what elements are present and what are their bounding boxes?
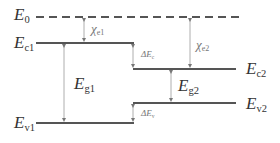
label-ev2: Ev2 xyxy=(246,95,267,115)
label-e0: E0 xyxy=(14,6,30,26)
label-eg2: Eg2 xyxy=(178,77,199,97)
label-ev1: Ev1 xyxy=(14,114,35,134)
label-ec2: Ec2 xyxy=(246,60,266,80)
label-delta-ec: ΔEc xyxy=(141,50,154,60)
band-diagram xyxy=(0,0,280,143)
label-chi-e2: χe2 xyxy=(196,38,209,53)
label-delta-ev: ΔEv xyxy=(141,109,155,119)
label-chi-e1: χe1 xyxy=(91,22,104,37)
label-eg1: Eg1 xyxy=(74,75,95,95)
label-ec1: Ec1 xyxy=(14,34,34,54)
